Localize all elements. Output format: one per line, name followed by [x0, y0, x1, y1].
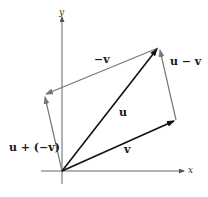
label-u-minus-v: u − v	[170, 56, 201, 67]
vector-v	[62, 121, 174, 171]
label-u: u	[119, 107, 127, 118]
label-neg-v: −v	[94, 54, 110, 65]
vector-u-plus-neg-v	[45, 97, 62, 171]
label-v: v	[124, 144, 130, 155]
y-axis-label: y	[59, 8, 64, 17]
x-axis-label: x	[188, 166, 193, 175]
vector-diagram: y x −v u − v u v u + (−v)	[0, 0, 208, 197]
label-u-plus-neg-v: u + (−v)	[9, 142, 60, 153]
diagram-canvas	[0, 0, 208, 197]
